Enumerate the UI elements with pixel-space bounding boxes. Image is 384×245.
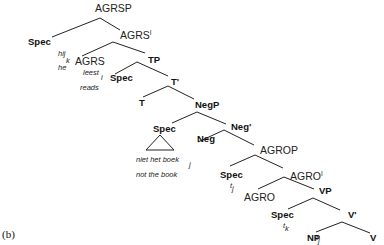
node-v-bar: V': [348, 209, 357, 220]
node-t: T: [139, 97, 145, 108]
trace-t-spec-agro: tj: [230, 181, 234, 193]
node-agrsp: AGRSP: [95, 2, 132, 14]
word-hij: hij: [58, 49, 66, 58]
syntax-tree: AGRSP Spec hij k he AGRSI AGRS leest i r…: [0, 0, 384, 245]
node-v: V: [370, 232, 377, 243]
word-leest: leest: [83, 68, 100, 77]
node-agro: AGRO: [244, 191, 275, 203]
node-negp: NegP: [195, 99, 220, 110]
node-agrs-bar: AGRSI: [120, 29, 152, 41]
node-agro-bar: AGROI: [290, 170, 323, 182]
tree-branches: [52, 18, 370, 233]
node-vp: VP: [319, 185, 332, 196]
node-spec-subject: Spec: [28, 36, 51, 47]
figure-label: (b): [2, 228, 15, 241]
index-j-object: j: [188, 160, 191, 169]
node-spec-vp: Spec: [271, 209, 294, 220]
gloss-he: he: [58, 63, 66, 72]
node-spec-agro: Spec: [220, 169, 243, 180]
node-neg-bar: Neg': [231, 121, 251, 132]
index-i: i: [101, 73, 103, 82]
node-tp: TP: [148, 54, 161, 65]
gloss-reads: reads: [80, 83, 99, 92]
node-t-bar: T': [171, 76, 179, 87]
node-agrop: AGROP: [260, 144, 298, 156]
node-neg: Neg: [197, 133, 215, 144]
node-spec-neg: Spec: [153, 123, 176, 134]
trace-t-spec-vp: tk: [283, 221, 290, 233]
node-spec-tp: Spec: [110, 72, 133, 83]
word-niet-het-boek: niet het boek: [136, 155, 180, 164]
node-agrs: AGRS: [75, 55, 105, 67]
gloss-not-the-book: not the book: [136, 170, 179, 179]
index-k: k: [66, 56, 71, 65]
